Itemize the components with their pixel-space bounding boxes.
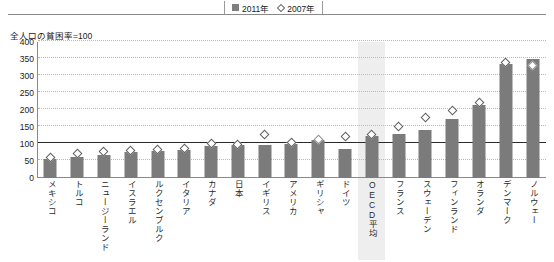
- header-divider: [8, 14, 546, 15]
- chart-legend: 2011年 2007年: [224, 1, 323, 14]
- bar-2011: [419, 130, 432, 178]
- category-label: オランダ: [475, 180, 484, 216]
- bar-2011: [473, 105, 486, 178]
- bar-group: [439, 42, 466, 178]
- category-label: ルクセンブルク: [153, 180, 162, 243]
- category-label: スウェーデン: [421, 180, 430, 234]
- bar-2011: [178, 150, 191, 178]
- category-label: ノルウェー: [528, 180, 537, 225]
- y-tick-100: 100: [0, 139, 34, 149]
- bar-2011: [258, 145, 271, 178]
- category-label: イスラエル: [126, 180, 135, 225]
- bar-2011: [97, 155, 110, 178]
- bar-2011: [285, 144, 298, 178]
- bar-2011: [339, 149, 352, 178]
- y-tick-400: 400: [0, 37, 34, 47]
- y-tick-0: 0: [0, 173, 34, 183]
- x-axis-category-labels: メキシコトルコニュージーランドイスラエルルクセンブルクイタリアカナダ日本イギリス…: [37, 180, 546, 262]
- category-label: アメリカ: [287, 180, 296, 216]
- category-label: ギリシャ: [314, 180, 323, 216]
- bar-group: [519, 42, 546, 178]
- gridline-400: [38, 40, 546, 41]
- legend-entry-2007: 2007年: [278, 2, 315, 14]
- y-axis-tick-labels: 050100150200250300350400: [0, 42, 34, 178]
- bar-group: [278, 42, 305, 178]
- category-label: フランス: [394, 180, 403, 216]
- marker-2007: [260, 130, 270, 140]
- legend-label-2007: 2007年: [287, 2, 315, 14]
- bar-2011: [71, 157, 84, 178]
- y-tick-250: 250: [0, 88, 34, 98]
- bar-group: [251, 42, 278, 178]
- bar-group: [358, 42, 385, 178]
- bar-group: [117, 42, 144, 178]
- bar-2011: [392, 134, 405, 178]
- open-diamond-icon: [277, 3, 285, 11]
- bar-group: [37, 42, 64, 178]
- bar-2011: [231, 145, 244, 178]
- bar-group: [64, 42, 91, 178]
- category-label: OECD平均: [368, 180, 377, 238]
- bar-2011: [526, 59, 539, 178]
- bar-2011: [499, 64, 512, 178]
- bar-2011: [124, 152, 137, 178]
- y-tick-350: 350: [0, 54, 34, 64]
- chart-root: 2011年 2007年 全人口の貧困率=100 0501001502002503…: [0, 0, 554, 262]
- bar-group: [91, 42, 118, 178]
- marker-2007: [394, 121, 404, 131]
- bar-group: [385, 42, 412, 178]
- bar-2011: [205, 146, 218, 178]
- category-label: フィンランド: [448, 180, 457, 234]
- category-label: イギリス: [260, 180, 269, 216]
- marker-2007: [340, 132, 350, 142]
- bar-2011: [446, 119, 459, 179]
- bar-group: [198, 42, 225, 178]
- marker-2007: [420, 113, 430, 123]
- bar-group: [492, 42, 519, 178]
- data-series-layer: [37, 42, 546, 178]
- category-label: イタリア: [180, 180, 189, 216]
- bar-2011: [365, 136, 378, 179]
- y-tick-200: 200: [0, 105, 34, 115]
- bar-2011: [151, 151, 164, 178]
- category-label: ニュージーランド: [100, 180, 109, 252]
- legend-entry-2011: 2011年: [232, 2, 269, 14]
- category-label: 日本: [234, 180, 243, 198]
- category-label: ドイツ: [341, 180, 350, 207]
- y-tick-150: 150: [0, 122, 34, 132]
- category-label: トルコ: [73, 180, 82, 207]
- category-label: カナダ: [207, 180, 216, 207]
- y-tick-300: 300: [0, 71, 34, 81]
- category-label: デンマーク: [501, 180, 510, 225]
- bar-group: [332, 42, 359, 178]
- bar-2011: [312, 140, 325, 178]
- bar-group: [412, 42, 439, 178]
- bar-group: [171, 42, 198, 178]
- y-tick-50: 50: [0, 156, 34, 166]
- marker-2007: [447, 105, 457, 115]
- legend-label-2011: 2011年: [242, 2, 269, 14]
- category-label: メキシコ: [46, 180, 55, 216]
- bar-group: [144, 42, 171, 178]
- bar-group: [305, 42, 332, 178]
- bar-group: [225, 42, 252, 178]
- filled-square-icon: [232, 4, 239, 11]
- bar-group: [466, 42, 493, 178]
